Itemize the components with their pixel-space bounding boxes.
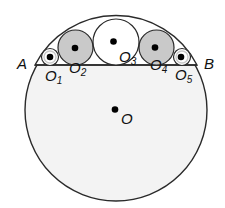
center-dot-o4	[152, 44, 159, 51]
geometry-diagram: A B O1 O2 O3 O4 O5 O	[0, 0, 225, 208]
center-dot-o1	[47, 54, 54, 61]
label-o: O	[121, 110, 133, 127]
center-dot-o5	[178, 54, 185, 61]
center-dot-o2	[72, 45, 79, 52]
label-b: B	[204, 55, 214, 72]
center-dot-o3	[110, 38, 117, 45]
label-a: A	[16, 55, 27, 72]
center-dot-o	[112, 106, 119, 113]
